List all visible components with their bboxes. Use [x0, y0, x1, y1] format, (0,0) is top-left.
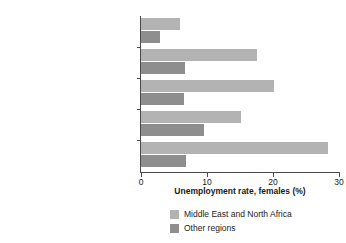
y-axis-tick	[137, 78, 141, 79]
plot-area	[141, 16, 339, 172]
bar-1	[141, 93, 184, 105]
legend-swatch-icon	[170, 224, 179, 233]
legend-item: Other regions	[170, 221, 292, 235]
bar-1	[141, 124, 204, 136]
bar-0	[141, 80, 274, 92]
bar-group	[141, 142, 339, 168]
bar-group	[141, 49, 339, 75]
legend-item: Middle East and North Africa	[170, 207, 292, 221]
y-axis-tick	[137, 109, 141, 110]
x-axis-tick-label: 10	[202, 177, 211, 187]
y-axis-tick	[137, 47, 141, 48]
legend-swatch-icon	[170, 210, 179, 219]
chart-legend: Middle East and North AfricaOther region…	[170, 207, 292, 235]
x-axis-tick-label: 0	[139, 177, 144, 187]
bar-0	[141, 111, 241, 123]
bar-1	[141, 31, 160, 43]
bar-0	[141, 49, 257, 61]
bar-0	[141, 142, 328, 154]
bar-chart: Unemployment rate, females (%) Middle Ea…	[0, 0, 346, 243]
x-axis-tick-label: 20	[268, 177, 277, 187]
x-axis-line	[140, 172, 340, 173]
bar-group	[141, 18, 339, 44]
legend-label: Other regions	[184, 223, 236, 233]
x-axis-title: Unemployment rate, females (%)	[141, 186, 339, 196]
bar-group	[141, 111, 339, 137]
legend-label: Middle East and North Africa	[184, 209, 292, 219]
bar-1	[141, 62, 185, 74]
y-axis-tick	[137, 140, 141, 141]
bar-group	[141, 80, 339, 106]
x-axis-tick-label: 30	[334, 177, 343, 187]
bar-1	[141, 155, 186, 167]
bar-0	[141, 18, 180, 30]
